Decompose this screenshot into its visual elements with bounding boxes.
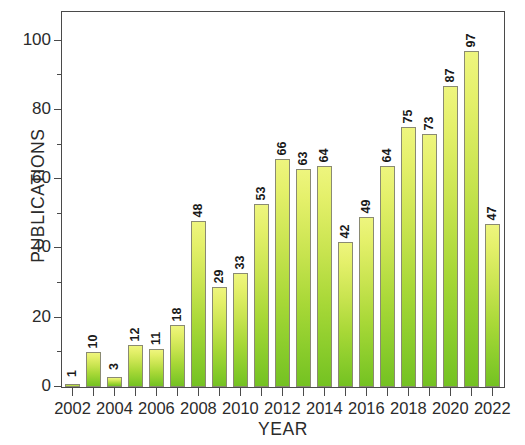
bar-value-label: 64 [381,148,394,162]
bar-group: 87 [443,12,458,387]
bar-group: 66 [275,12,290,387]
y-axis-tick-label: 20 [32,307,51,327]
bar[interactable] [296,169,311,387]
x-axis-tick [366,387,367,396]
bar-group: 18 [170,12,185,387]
x-axis-tick [345,387,346,396]
bar-group: 64 [317,12,332,387]
x-axis-tick-label: 2002 [54,399,91,418]
bar-group: 47 [485,12,500,387]
y-axis-tick-label: 80 [32,99,51,119]
y-axis-minor-tick [57,351,62,352]
bar[interactable] [401,127,416,387]
bar[interactable] [128,345,143,387]
plot-area: 1103121118482933536663644249647573879747… [61,11,505,388]
bar-value-label: 10 [87,335,100,349]
bar-value-label: 73 [423,117,436,131]
bar-value-label: 87 [444,68,457,82]
bar-group: 29 [212,12,227,387]
x-axis-tick [261,387,262,396]
bar-group: 73 [422,12,437,387]
y-axis-tick [54,386,62,387]
x-axis-tick-label: 2016 [348,399,385,418]
bar-value-label: 47 [486,207,499,221]
bar-group: 10 [86,12,101,387]
bar-group: 75 [401,12,416,387]
x-axis-tick [429,387,430,396]
x-axis-tick [135,387,136,396]
bar-value-label: 1 [66,370,79,377]
bar-group: 33 [233,12,248,387]
bar[interactable] [107,377,122,387]
bar[interactable] [464,51,479,387]
bar[interactable] [485,224,500,387]
x-axis-title: YEAR [61,419,505,440]
x-axis-tick [240,387,241,396]
bar-value-label: 64 [318,148,331,162]
x-axis-tick-label: 2004 [96,399,133,418]
x-axis-tick-label: 2006 [138,399,175,418]
bar-value-label: 12 [129,328,142,342]
x-axis-tick [303,387,304,396]
bar[interactable] [359,217,374,387]
bar-group: 64 [380,12,395,387]
bar[interactable] [443,86,458,387]
x-axis-tick [387,387,388,396]
x-axis-tick-label: 2018 [390,399,427,418]
x-axis-tick-label: 2022 [474,399,511,418]
bar-value-label: 97 [465,34,478,48]
x-axis-tick-label: 2014 [306,399,343,418]
x-axis-tick [177,387,178,396]
bar-value-label: 66 [276,141,289,155]
bar-group: 97 [464,12,479,387]
x-axis-tick [408,387,409,396]
bar-value-label: 11 [150,332,163,345]
bar-group: 49 [359,12,374,387]
y-axis-tick [54,178,62,179]
bar-chart-figure: PUBLICATIONS 110312111848293353666364424… [0,0,525,445]
bar-value-label: 48 [192,203,205,217]
y-axis-tick-label: 60 [32,168,51,188]
x-axis-tick [492,387,493,396]
x-axis-tick [282,387,283,396]
bar[interactable] [338,242,353,387]
bar[interactable] [212,287,227,387]
bar-value-label: 53 [255,186,268,200]
bar[interactable] [233,273,248,387]
x-axis-tick-label: 2010 [222,399,259,418]
y-axis-minor-tick [57,74,62,75]
y-axis-tick [54,317,62,318]
bar[interactable] [191,221,206,387]
bar-value-label: 29 [213,269,226,283]
bar-group: 48 [191,12,206,387]
bar-group: 63 [296,12,311,387]
y-axis-tick-label: 0 [42,376,51,396]
x-axis-tick [324,387,325,396]
bar-value-label: 49 [360,200,373,214]
bar[interactable] [275,159,290,387]
y-axis-minor-tick [57,144,62,145]
x-axis-tick [471,387,472,396]
bar[interactable] [170,325,185,387]
y-axis-tick [54,247,62,248]
x-axis-tick [114,387,115,396]
bar[interactable] [254,204,269,387]
bar-value-label: 18 [171,307,184,321]
y-axis-tick [54,40,62,41]
bar-value-label: 33 [234,255,247,269]
bar-value-label: 75 [402,110,415,124]
bar[interactable] [380,166,395,388]
bar[interactable] [317,166,332,388]
bar[interactable] [422,134,437,387]
bar[interactable] [86,352,101,387]
x-axis-tick [219,387,220,396]
bar-group: 42 [338,12,353,387]
x-axis-tick [450,387,451,396]
y-axis-tick [54,109,62,110]
x-axis-tick-label: 2012 [264,399,301,418]
x-axis-tick [198,387,199,396]
bar-group: 12 [128,12,143,387]
x-axis-tick-label: 2020 [432,399,469,418]
bar-value-label: 3 [108,363,121,370]
bar[interactable] [149,349,164,387]
